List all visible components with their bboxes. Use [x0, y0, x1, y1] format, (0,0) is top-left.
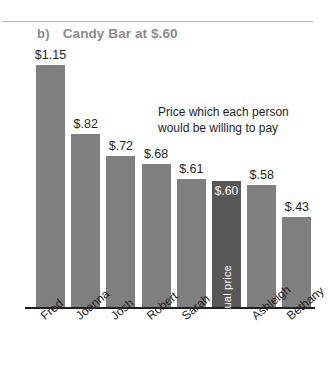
bar-robert: $.68 — [142, 164, 171, 307]
bar-value-label: $.58 — [250, 168, 274, 182]
bar-actual-price: $.60Actual price — [212, 181, 241, 307]
bar-value-label: $.61 — [179, 162, 203, 176]
plot-area: $1.15$.82$.72$.68$.61$.60Actual price$.5… — [0, 0, 333, 374]
actual-price-inner-label: Actual price — [221, 265, 233, 325]
bar-josh: $.72 — [106, 156, 135, 308]
bar-ashleigh: $.58 — [247, 185, 276, 307]
bar-value-label: $.82 — [74, 117, 98, 131]
figure-panel: b) Candy Bar at $.60 Price which each pe… — [0, 0, 333, 374]
bar-fred: $1.15 — [36, 65, 65, 307]
bar-value-label: $.68 — [144, 147, 168, 161]
bar-value-label: $.43 — [285, 200, 309, 214]
bar-value-label: $.72 — [109, 139, 133, 153]
bar-value-label: $1.15 — [35, 48, 66, 62]
bar-value-label: $.60 — [215, 184, 238, 198]
bar-sarah: $.61 — [177, 179, 206, 307]
bar-joanna: $.82 — [71, 134, 100, 307]
